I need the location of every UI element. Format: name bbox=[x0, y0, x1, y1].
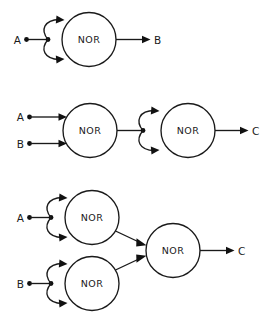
d3-arrowhead-a-lower bbox=[59, 234, 68, 242]
d2-arrowhead-lower bbox=[151, 147, 160, 155]
d2-gate-1-label: NOR bbox=[79, 125, 101, 136]
d3-arrowhead-b-lower bbox=[59, 300, 68, 308]
d3-arrowhead-a-upper bbox=[59, 194, 68, 202]
diagram-2-nor-or: NOR NOR A B C bbox=[17, 104, 260, 158]
d3-gate-3-label: NOR bbox=[162, 245, 184, 256]
d1-gate-label: NOR bbox=[78, 34, 100, 45]
d3-arrowhead-b-upper bbox=[59, 260, 68, 268]
d2-output-arrowhead bbox=[240, 127, 249, 134]
d3-gate-2-label: NOR bbox=[81, 278, 103, 289]
d2-label-output-c: C bbox=[252, 125, 259, 137]
nor-gate-circuits-svg: NOR A B NOR bbox=[0, 0, 272, 325]
d3-arrowhead-interconnect-upper bbox=[136, 238, 146, 246]
d3-label-output-c: C bbox=[238, 245, 245, 257]
d2-label-input-b: B bbox=[17, 138, 24, 150]
d2-label-input-a: A bbox=[17, 111, 25, 123]
d3-label-input-b: B bbox=[17, 278, 24, 290]
d1-output-arrowhead bbox=[142, 36, 151, 43]
d3-gate-1-label: NOR bbox=[81, 212, 103, 223]
d2-arrowhead-upper bbox=[151, 107, 160, 115]
d1-label-output-b: B bbox=[154, 34, 161, 46]
d1-arrowhead-lower bbox=[56, 56, 65, 64]
circuit-diagram-figure: NOR A B NOR bbox=[0, 0, 272, 325]
d3-label-input-a: A bbox=[17, 212, 25, 224]
d3-arrowhead-interconnect-lower bbox=[136, 255, 146, 263]
diagram-3-nor-and: NOR NOR NOR A B C bbox=[17, 191, 246, 311]
d1-label-input-a: A bbox=[14, 34, 22, 46]
d2-gate-2-label: NOR bbox=[177, 125, 199, 136]
d1-arrowhead-upper bbox=[56, 16, 65, 24]
d1-input-terminal-a bbox=[24, 37, 29, 42]
diagram-1-nor-inverter: NOR A B bbox=[14, 13, 161, 67]
d3-output-arrowhead bbox=[226, 247, 235, 254]
